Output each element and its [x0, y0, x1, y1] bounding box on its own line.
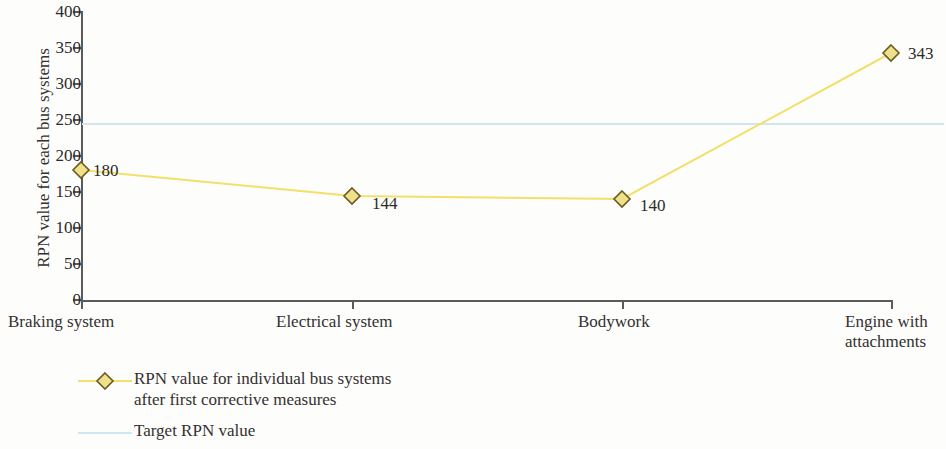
data-point-marker-electrical-system[interactable]	[344, 188, 360, 204]
chart-legend: RPN value for individual bus systems aft…	[78, 368, 638, 442]
data-label-engine-with-attachments: 343	[908, 44, 934, 64]
legend-item-rpn-value[interactable]: RPN value for individual bus systems aft…	[78, 368, 638, 410]
rpn-series-markers	[73, 45, 899, 207]
legend-label-target-rpn: Target RPN value	[132, 420, 255, 441]
legend-marker-diamond	[78, 368, 132, 390]
rpn-series-line	[81, 53, 891, 199]
diamond-icon	[97, 373, 113, 389]
legend-item-target-rpn[interactable]: Target RPN value	[78, 420, 638, 442]
data-label-electrical-system: 144	[372, 194, 398, 214]
data-label-braking-system: 180	[93, 161, 119, 181]
data-point-marker-braking-system[interactable]	[73, 162, 89, 178]
data-point-marker-engine-with-attachments[interactable]	[883, 45, 899, 61]
legend-marker-target-line	[78, 420, 132, 442]
legend-label-rpn-value: RPN value for individual bus systems aft…	[132, 368, 391, 410]
data-point-marker-bodywork[interactable]	[614, 191, 630, 207]
chart-figure: RPN value for each bus systems 400 350 3…	[0, 0, 946, 449]
data-label-bodywork: 140	[640, 196, 666, 216]
